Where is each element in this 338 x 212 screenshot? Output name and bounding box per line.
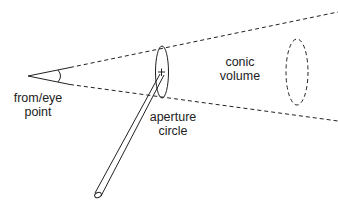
conic-volume-label: conic volume bbox=[212, 55, 268, 83]
eye-point-apex bbox=[28, 68, 70, 85]
eye-point-label-line2: point bbox=[12, 105, 64, 119]
eye-point-label-line1: from/eye bbox=[12, 91, 64, 105]
far-section-ellipse bbox=[286, 39, 308, 105]
aperture-circle-label-line1: aperture bbox=[143, 110, 203, 124]
cone-upper-edge bbox=[70, 12, 338, 68]
aperture-circle-label-line2: circle bbox=[143, 124, 203, 138]
conic-volume-label-line2: volume bbox=[212, 69, 268, 83]
cone-lower-edge bbox=[70, 85, 338, 122]
view-angle-arc bbox=[58, 70, 61, 82]
aperture-circle-label: aperture circle bbox=[143, 110, 203, 138]
conic-volume-label-line1: conic bbox=[212, 55, 268, 69]
eye-point-label: from/eye point bbox=[12, 91, 64, 119]
